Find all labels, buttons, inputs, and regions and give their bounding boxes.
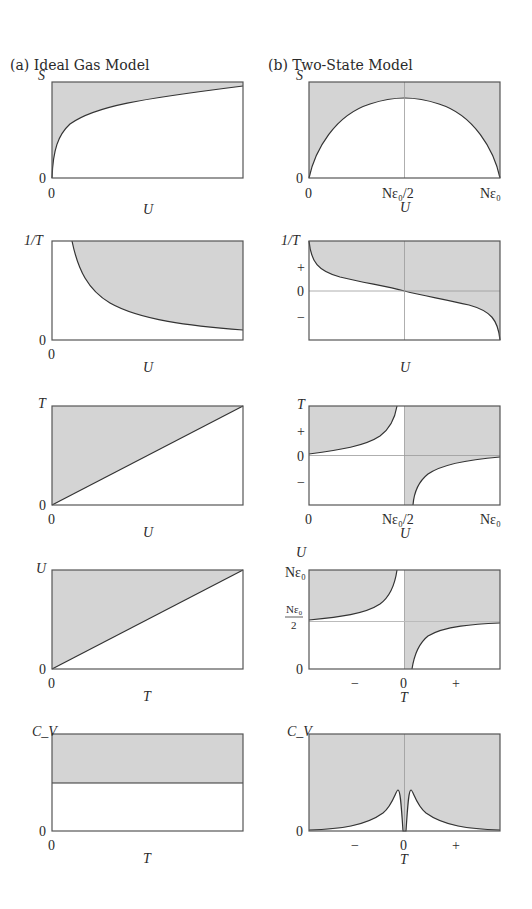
y-tick-zero: 0 (297, 449, 304, 464)
y-origin-label: 0 (39, 498, 46, 513)
x-axis-label: T (400, 690, 409, 705)
x-axis-label: T (400, 852, 409, 867)
y-tick-plus: + (297, 424, 305, 439)
x-axis-label: T (143, 851, 152, 866)
y-tick-half-numerator: Nε₀ (286, 603, 303, 615)
x-tick-max: Nε₀ (480, 186, 501, 201)
x-tick-zero: 0 (400, 676, 407, 691)
x-tick-plus: + (452, 676, 460, 691)
x-axis-label: U (143, 360, 154, 375)
y-tick-zero: 0 (296, 662, 303, 677)
x-tick-half: Nε₀/2 (382, 186, 414, 201)
panel-twostate-cv-vs-t: C_V 0 − 0 + T (287, 724, 500, 867)
panel-ideal-u-vs-t: U 0 0 T (36, 561, 243, 704)
x-tick-max: Nε₀ (480, 512, 501, 527)
y-tick-minus: − (297, 475, 305, 490)
panel-ideal-cv-vs-t: C_V 0 0 T (32, 724, 243, 866)
x-tick-minus: − (351, 676, 359, 691)
x-origin-label: 0 (48, 512, 55, 527)
y-axis-label: S (296, 68, 303, 83)
y-axis-label: 1/T (24, 233, 44, 248)
x-axis-label: U (143, 525, 154, 540)
panel-ideal-t-vs-u: T 0 0 U (38, 396, 243, 540)
x-tick-0: 0 (305, 186, 312, 201)
y-axis-label: U (36, 561, 47, 576)
panel-twostate-s-vs-u: S 0 0 Nε₀/2 Nε₀ U (296, 68, 501, 215)
x-axis-label: U (400, 360, 411, 375)
x-tick-zero: 0 (400, 838, 407, 853)
y-axis-label: C_V (287, 724, 313, 739)
x-origin-label: 0 (48, 347, 55, 362)
y-tick-half-denominator: 2 (291, 619, 297, 631)
x-origin-label: 0 (48, 676, 55, 691)
y-origin-label: 0 (39, 662, 46, 677)
y-axis-label: 1/T (281, 233, 301, 248)
x-axis-label: T (143, 689, 152, 704)
x-tick-minus: − (351, 838, 359, 853)
y-origin-label: 0 (39, 333, 46, 348)
x-origin-label: 0 (48, 186, 55, 201)
y-origin-label: 0 (39, 824, 46, 839)
x-axis-label: U (143, 202, 154, 217)
y-axis-label: T (297, 397, 306, 412)
y-axis-label: S (38, 68, 45, 83)
y-tick-minus: − (297, 310, 305, 325)
y-origin-label: 0 (296, 171, 303, 186)
x-tick-plus: + (452, 838, 460, 853)
y-tick-zero: 0 (297, 284, 304, 299)
x-axis-label: U (400, 526, 411, 541)
y-tick-plus: + (297, 260, 305, 275)
x-axis-label: U (400, 200, 411, 215)
y-axis-label: C_V (32, 724, 58, 739)
x-tick-half: Nε₀/2 (382, 512, 414, 527)
y-origin-label: 0 (39, 171, 46, 186)
figure-canvas: S 0 0 U 1/T 0 0 U T 0 0 U U 0 0 T (0, 0, 532, 909)
panel-ideal-s-vs-u: S 0 0 U (38, 68, 243, 217)
x-origin-label: 0 (48, 838, 55, 853)
y-axis-label: U (296, 545, 307, 560)
panel-twostate-invT-vs-u: 1/T + 0 − U (281, 233, 500, 375)
y-tick-zero: 0 (296, 824, 303, 839)
panel-ideal-invT-vs-u: 1/T 0 0 U (24, 233, 243, 375)
y-tick-max: Nε₀ (285, 565, 306, 580)
y-axis-label: T (38, 396, 47, 411)
x-tick-0: 0 (305, 512, 312, 527)
panel-twostate-u-vs-t: U Nε₀ Nε₀ 2 0 − 0 + T (285, 545, 500, 705)
panel-twostate-t-vs-u: T + 0 − 0 Nε₀/2 Nε₀ U (297, 397, 501, 541)
